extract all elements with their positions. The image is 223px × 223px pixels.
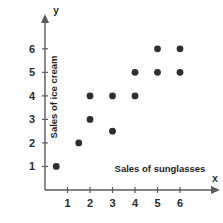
x-tick-label: 3 — [109, 197, 115, 209]
data-point — [109, 128, 116, 135]
y-axis-title: Sales of ice cream — [48, 56, 59, 139]
data-point — [109, 92, 116, 99]
x-axis-title: Sales of sunglasses — [115, 163, 206, 174]
y-tick-label: 1 — [29, 160, 35, 172]
data-point — [154, 69, 161, 76]
y-axis-letter: y — [53, 5, 59, 16]
data-point — [154, 45, 161, 52]
y-tick-label: 6 — [29, 43, 35, 55]
plot-area: 123456123456 Sales of sunglassesSales of… — [0, 0, 223, 223]
y-tick-label: 4 — [29, 90, 36, 102]
x-axis-letter: x — [212, 173, 218, 184]
scatter-chart: 123456123456 Sales of sunglassesSales of… — [0, 0, 223, 223]
data-point — [53, 163, 60, 170]
data-point — [177, 45, 184, 52]
x-tick-label: 1 — [64, 197, 70, 209]
data-point — [87, 116, 94, 123]
x-tick-label: 5 — [154, 197, 160, 209]
data-point — [132, 69, 139, 76]
data-point — [132, 92, 139, 99]
data-point — [75, 140, 82, 147]
x-tick-label: 2 — [87, 197, 93, 209]
y-tick-label: 5 — [29, 66, 35, 78]
data-points-group — [53, 45, 184, 169]
x-tick-label: 4 — [132, 197, 139, 209]
data-point — [177, 69, 184, 76]
x-axis-arrow — [211, 186, 220, 194]
y-tick-label: 2 — [29, 137, 35, 149]
y-axis-arrow — [41, 14, 49, 23]
data-point — [87, 92, 94, 99]
x-tick-label: 6 — [177, 197, 183, 209]
y-tick-label: 3 — [29, 113, 35, 125]
